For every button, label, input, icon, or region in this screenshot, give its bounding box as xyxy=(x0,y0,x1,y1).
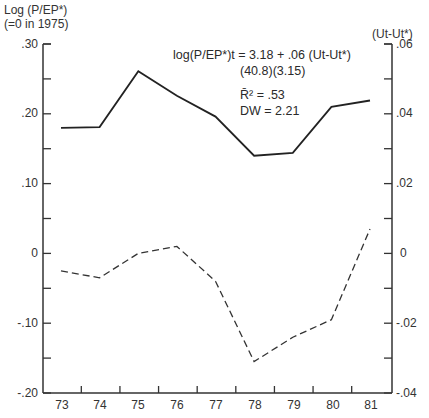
left-tick-label: .30 xyxy=(2,37,38,51)
x-tick-label: 78 xyxy=(240,398,270,412)
left-tick-label: -.10 xyxy=(2,316,38,330)
left-tick-label: .20 xyxy=(2,106,38,120)
right-tick-label: .04 xyxy=(396,106,413,120)
regression-equation: log(P/EP*)t = 3.18 + .06 (Ut-Ut*) xyxy=(173,48,351,63)
x-tick-label: 73 xyxy=(47,398,77,412)
right-tick-label: 0 xyxy=(400,246,407,260)
left-tick-label: 0 xyxy=(2,246,38,260)
regression-durbin-watson: DW = 2.21 xyxy=(240,104,299,119)
x-tick-label: 74 xyxy=(85,398,115,412)
x-tick-label: 76 xyxy=(162,398,192,412)
right-tick-label: .06 xyxy=(396,37,413,51)
x-tick-label: 77 xyxy=(201,398,231,412)
x-tick-label: 81 xyxy=(356,398,386,412)
x-tick-label: 80 xyxy=(318,398,348,412)
right-tick-label: .02 xyxy=(396,176,413,190)
right-tick-label: -.02 xyxy=(396,316,417,330)
left-axis-subtitle: (=0 in 1975) xyxy=(4,18,68,31)
axes xyxy=(43,44,392,393)
series-unemployment-gap-line xyxy=(61,229,370,362)
left-tick-label: .10 xyxy=(2,176,38,190)
left-tick-label: -.20 xyxy=(2,386,38,400)
left-axis-title: Log (P/EP*) xyxy=(4,4,67,17)
series-log-p-ep-line xyxy=(61,71,370,156)
x-tick-label: 75 xyxy=(123,398,153,412)
regression-r-squared: R̄² = .53 xyxy=(240,88,285,103)
right-tick-label: -.04 xyxy=(396,386,417,400)
regression-t-stats: (40.8)(3.15) xyxy=(240,64,305,79)
x-tick-label: 79 xyxy=(279,398,309,412)
